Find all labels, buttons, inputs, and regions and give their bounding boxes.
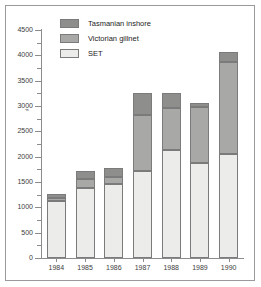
y-tick-label: 4500 bbox=[17, 26, 33, 33]
chart-legend: Tasmanian inshoreVictorian gillnetSET bbox=[60, 16, 170, 61]
bar-1984 bbox=[47, 30, 66, 258]
bar-segment bbox=[162, 108, 181, 151]
y-tick-minor bbox=[37, 119, 41, 120]
bar-1987 bbox=[133, 30, 152, 258]
bar-1990 bbox=[219, 30, 238, 258]
bar-segment bbox=[133, 93, 152, 115]
y-tick-minor bbox=[37, 144, 41, 145]
x-tick-label: 1985 bbox=[77, 264, 93, 271]
x-tick-label: 1989 bbox=[192, 264, 208, 271]
y-tick bbox=[35, 258, 41, 259]
bar-segment bbox=[190, 103, 209, 107]
x-tick bbox=[56, 258, 57, 262]
legend-item: Tasmanian inshore bbox=[60, 16, 170, 31]
y-tick-label: 1000 bbox=[17, 203, 33, 210]
bar-segment bbox=[47, 194, 66, 198]
bar-segment bbox=[219, 62, 238, 154]
bar-segment bbox=[47, 198, 66, 201]
y-tick-label: 3500 bbox=[17, 77, 33, 84]
bar-1988 bbox=[162, 30, 181, 258]
bar-segment bbox=[162, 150, 181, 258]
legend-label: Tasmanian inshore bbox=[88, 20, 151, 28]
x-tick-label: 1987 bbox=[135, 264, 151, 271]
bar-segment bbox=[190, 163, 209, 258]
bar-segment bbox=[190, 107, 209, 163]
y-tick bbox=[35, 30, 41, 31]
x-tick-label: 1990 bbox=[221, 264, 237, 271]
x-tick bbox=[229, 258, 230, 262]
bar-segment bbox=[162, 93, 181, 108]
y-tick-label: 0 bbox=[29, 254, 33, 261]
y-tick-minor bbox=[37, 195, 41, 196]
bar-segment bbox=[133, 171, 152, 258]
y-tick-label: 500 bbox=[21, 229, 33, 236]
y-tick bbox=[35, 131, 41, 132]
legend-label: Victorian gillnet bbox=[88, 35, 139, 43]
stray-mark-icon: ⌁ bbox=[25, 106, 30, 109]
bar-segment bbox=[104, 184, 123, 258]
bar-segment bbox=[104, 168, 123, 177]
x-tick bbox=[85, 258, 86, 262]
legend-item: SET bbox=[60, 46, 170, 61]
y-tick-minor bbox=[37, 93, 41, 94]
bar-1986 bbox=[104, 30, 123, 258]
y-tick-minor bbox=[37, 169, 41, 170]
bar-segment bbox=[76, 188, 95, 258]
bar-segment bbox=[104, 177, 123, 184]
x-tick-label: 1986 bbox=[106, 264, 122, 271]
legend-swatch bbox=[60, 34, 79, 43]
bar-segment bbox=[47, 201, 66, 258]
x-tick bbox=[143, 258, 144, 262]
y-tick bbox=[35, 157, 41, 158]
y-tick-minor bbox=[37, 220, 41, 221]
x-tick bbox=[171, 258, 172, 262]
legend-label: SET bbox=[88, 50, 103, 58]
x-tick bbox=[200, 258, 201, 262]
bar-segment bbox=[133, 115, 152, 171]
x-tick bbox=[114, 258, 115, 262]
legend-item: Victorian gillnet bbox=[60, 31, 170, 46]
legend-swatch bbox=[60, 49, 79, 58]
y-tick-label: 4000 bbox=[17, 51, 33, 58]
x-tick-label: 1988 bbox=[163, 264, 179, 271]
bar-segment bbox=[219, 52, 238, 62]
bar-segment bbox=[219, 154, 238, 258]
y-tick bbox=[35, 81, 41, 82]
bar-1985 bbox=[76, 30, 95, 258]
y-tick bbox=[35, 55, 41, 56]
y-tick-label: 1500 bbox=[17, 178, 33, 185]
y-tick bbox=[35, 233, 41, 234]
x-tick-label: 1984 bbox=[49, 264, 65, 271]
y-tick-minor bbox=[37, 245, 41, 246]
chart-figure: 050010001500200025003000350040004500 198… bbox=[0, 0, 261, 287]
bar-1989 bbox=[190, 30, 209, 258]
bar-segment bbox=[76, 179, 95, 187]
y-tick-label: 2500 bbox=[17, 127, 33, 134]
y-tick bbox=[35, 106, 41, 107]
legend-swatch bbox=[60, 19, 79, 28]
y-tick-label: 2000 bbox=[17, 153, 33, 160]
y-tick bbox=[35, 207, 41, 208]
y-tick-minor bbox=[37, 68, 41, 69]
plot-area bbox=[42, 30, 243, 258]
y-tick bbox=[35, 182, 41, 183]
y-tick-minor bbox=[37, 43, 41, 44]
bar-segment bbox=[76, 171, 95, 180]
